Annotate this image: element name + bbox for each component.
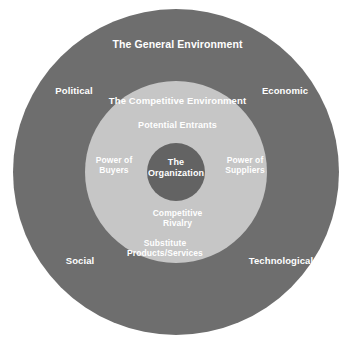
label-competitive-environment: The Competitive Environment [0,95,355,107]
label-organization: The Organization [127,157,225,179]
label-general-environment: The General Environment [0,38,355,51]
label-competitive-rivalry: Competitive Rivalry [0,208,355,229]
label-substitute-products: Substitute Products/Services [0,238,330,259]
label-potential-entrants: Potential Entrants [0,120,355,131]
concentric-environment-diagram: The General Environment Political Econom… [0,0,355,346]
